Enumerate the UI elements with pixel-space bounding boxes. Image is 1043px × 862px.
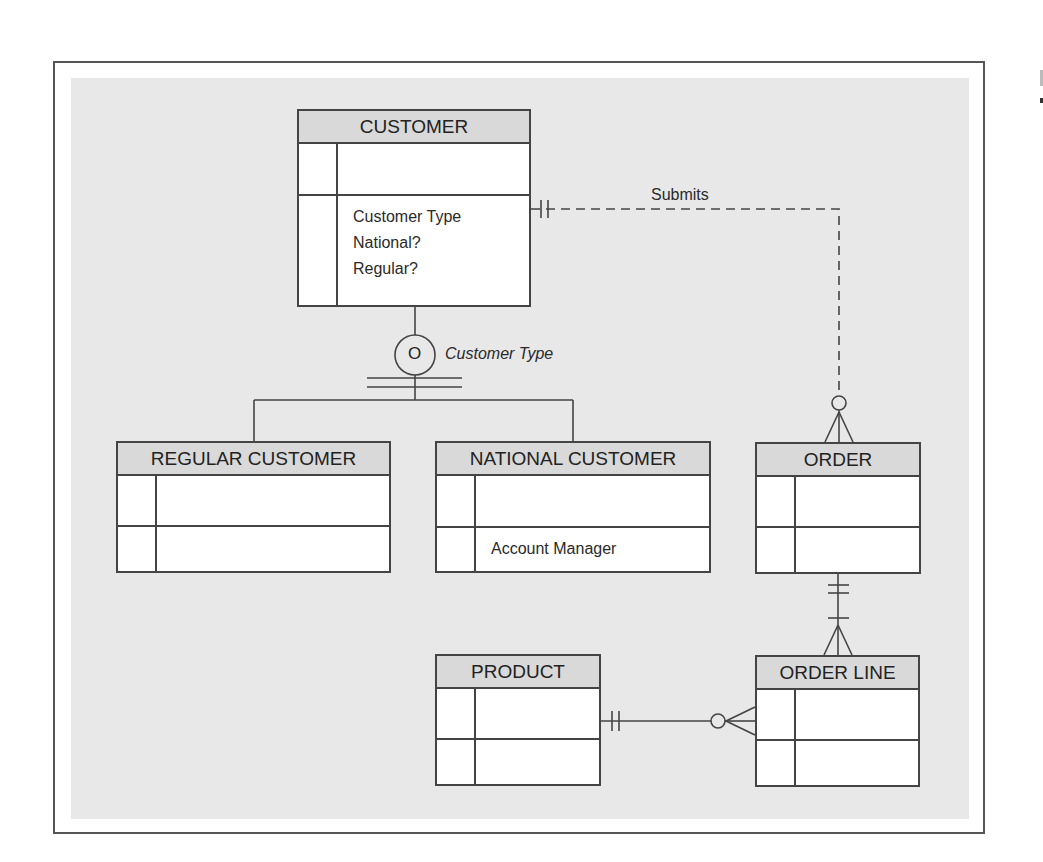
key-column-divider	[336, 142, 338, 305]
attribute: Customer Type	[353, 204, 461, 230]
entity-name: ORDER	[804, 449, 873, 470]
entity-header: PRODUCT	[437, 656, 599, 689]
attribute: Account Manager	[491, 536, 616, 562]
entity-header: REGULAR CUSTOMER	[118, 443, 389, 476]
key-column-divider	[794, 475, 796, 572]
subtype-discriminator-label: Customer Type	[445, 345, 553, 363]
entity-product[interactable]: PRODUCT	[435, 654, 601, 786]
entity-header: ORDER LINE	[757, 657, 918, 690]
row-divider	[437, 526, 709, 528]
key-column-divider	[474, 474, 476, 571]
entity-header: NATIONAL CUSTOMER	[437, 443, 709, 476]
crows-foot-bottom-3	[726, 721, 755, 735]
row-divider	[437, 738, 599, 740]
key-column-divider	[794, 688, 796, 785]
row-divider	[299, 194, 529, 196]
row-divider	[118, 525, 389, 527]
entity-order[interactable]: ORDER	[755, 442, 921, 574]
entity-customer[interactable]: CUSTOMER Customer Type National? Regular…	[297, 109, 531, 307]
entity-regular-customer[interactable]: REGULAR CUSTOMER	[116, 441, 391, 573]
attribute: Regular?	[353, 256, 418, 282]
attribute: National?	[353, 230, 421, 256]
entity-name: REGULAR CUSTOMER	[151, 448, 357, 469]
entity-name: PRODUCT	[471, 661, 565, 682]
crows-foot-left	[825, 412, 839, 442]
key-column-divider	[155, 474, 157, 571]
key-column-divider	[474, 687, 476, 784]
entity-name: ORDER LINE	[779, 662, 895, 683]
optional-circle-order	[832, 396, 846, 410]
entity-header: CUSTOMER	[299, 111, 529, 144]
row-divider	[757, 526, 919, 528]
row-divider	[757, 739, 918, 741]
entity-name: CUSTOMER	[360, 116, 468, 137]
crows-foot-right-2	[838, 625, 852, 655]
specialization-symbol: O	[408, 344, 421, 364]
crows-foot-top-3	[726, 707, 755, 721]
relationship-label-submits: Submits	[651, 186, 709, 204]
crows-foot-left-2	[824, 625, 838, 655]
submits-line	[531, 209, 839, 396]
optional-circle-orderline	[711, 714, 725, 728]
entity-national-customer[interactable]: NATIONAL CUSTOMER Account Manager	[435, 441, 711, 573]
crows-foot-right	[839, 412, 853, 442]
entity-header: ORDER	[757, 444, 919, 477]
entity-name: NATIONAL CUSTOMER	[470, 448, 677, 469]
entity-order-line[interactable]: ORDER LINE	[755, 655, 920, 787]
